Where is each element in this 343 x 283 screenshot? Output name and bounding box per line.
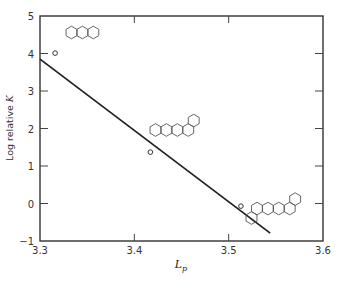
y-tick-label: 1 xyxy=(28,161,34,172)
axis-ticks xyxy=(40,16,323,241)
x-tick-label: 3.6 xyxy=(315,245,331,256)
y-tick-label: 3 xyxy=(28,86,34,97)
pentacyclic-structure-icon xyxy=(150,114,199,136)
data-point xyxy=(239,204,244,209)
y-axis-label: Log relative K xyxy=(4,94,15,161)
data-point xyxy=(53,51,58,56)
y-tick-label: 5 xyxy=(28,11,34,22)
fit-line xyxy=(40,59,270,233)
x-axis-label: Lp xyxy=(174,258,187,273)
y-tick-label: 4 xyxy=(28,49,34,60)
y-tick-label: 2 xyxy=(28,124,34,135)
tick-labels: 3.33.43.53.6−1012345 xyxy=(19,11,331,256)
x-tick-label: 3.5 xyxy=(221,245,237,256)
data-point xyxy=(148,150,153,155)
data-points xyxy=(53,51,243,209)
hexacyclic-structure-icon xyxy=(246,193,301,225)
y-tick-label: −1 xyxy=(19,236,34,247)
y-tick-label: 0 xyxy=(28,199,34,210)
x-tick-label: 3.3 xyxy=(32,245,48,256)
x-tick-label: 3.4 xyxy=(126,245,142,256)
chart: 3.33.43.53.6−1012345 Lp Log relative K xyxy=(0,0,343,283)
plot-frame xyxy=(40,16,323,241)
anthracene-structure-icon xyxy=(66,26,99,39)
